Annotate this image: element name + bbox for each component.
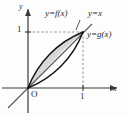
x-tick-label-1: 1 bbox=[80, 92, 85, 101]
math-figure: y=f(x) y=x y=g(x) y x 1 1 O bbox=[0, 0, 127, 116]
y-tick-label-1: 1 bbox=[17, 25, 22, 34]
label-identity-line: y=x bbox=[88, 9, 102, 18]
y-axis-arrow-icon bbox=[25, 9, 31, 16]
f-label-leader bbox=[76, 20, 80, 30]
origin-label: O bbox=[31, 90, 38, 99]
label-curve-f: y=f(x) bbox=[45, 9, 68, 18]
axis-label-y: y bbox=[19, 3, 23, 11]
label-curve-g: y=g(x) bbox=[87, 30, 112, 39]
axis-label-x: x bbox=[113, 85, 117, 93]
